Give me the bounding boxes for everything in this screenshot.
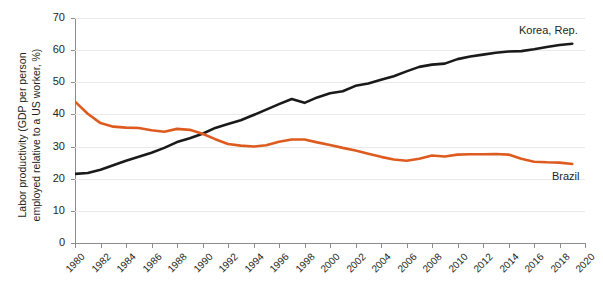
y-axis-title-line1: Labor productivity (GDP per person [16, 53, 28, 218]
chart-figure: Labor productivity (GDP per person emplo… [0, 0, 603, 283]
x-tick-mark [458, 244, 459, 248]
y-tick-label: 40 [35, 107, 65, 119]
x-tick-mark [432, 244, 433, 248]
x-tick-mark [381, 244, 382, 248]
x-tick-label: 1994 [239, 251, 265, 277]
series-lines [75, 18, 585, 243]
y-tick-label: 0 [35, 236, 65, 248]
x-tick-mark [509, 244, 510, 248]
x-tick-mark [152, 244, 153, 248]
x-tick-mark [101, 244, 102, 248]
y-tick-label: 20 [35, 172, 65, 184]
x-tick-label: 2016 [520, 251, 546, 277]
x-tick-label: 1986 [137, 251, 163, 277]
x-tick-mark [585, 244, 586, 248]
x-tick-mark [356, 244, 357, 248]
x-tick-mark [126, 244, 127, 248]
x-tick-label: 1990 [188, 251, 214, 277]
x-tick-mark [75, 244, 76, 248]
x-tick-mark [279, 244, 280, 248]
x-tick-mark [407, 244, 408, 248]
x-tick-mark [534, 244, 535, 248]
x-tick-mark [228, 244, 229, 248]
x-tick-label: 2012 [469, 251, 495, 277]
y-tick-label: 60 [35, 43, 65, 55]
x-tick-mark [330, 244, 331, 248]
series-label-korea: Korea, Rep. [519, 24, 578, 36]
x-tick-mark [203, 244, 204, 248]
x-tick-label: 1984 [112, 251, 138, 277]
x-tick-label: 2004 [367, 251, 393, 277]
x-tick-label: 1998 [290, 251, 316, 277]
x-tick-mark [305, 244, 306, 248]
x-tick-label: 1996 [265, 251, 291, 277]
y-tick-label: 70 [35, 11, 65, 23]
x-tick-label: 2014 [494, 251, 520, 277]
y-tick-label: 10 [35, 204, 65, 216]
clipped-chart-title [150, 0, 570, 3]
x-tick-label: 2020 [571, 251, 597, 277]
x-tick-mark [483, 244, 484, 248]
x-tick-mark [560, 244, 561, 248]
x-tick-label: 2018 [545, 251, 571, 277]
x-tick-label: 1992 [214, 251, 240, 277]
x-tick-label: 1980 [61, 251, 87, 277]
x-tick-mark [177, 244, 178, 248]
x-tick-label: 2008 [418, 251, 444, 277]
x-tick-mark [254, 244, 255, 248]
x-tick-label: 2010 [443, 251, 469, 277]
x-tick-label: 1982 [86, 251, 112, 277]
x-tick-label: 2006 [392, 251, 418, 277]
x-tick-label: 1988 [163, 251, 189, 277]
y-tick-label: 30 [35, 140, 65, 152]
y-tick-label: 50 [35, 75, 65, 87]
plot-area [75, 18, 585, 243]
x-tick-label: 2000 [316, 251, 342, 277]
series-label-brazil: Brazil [552, 170, 580, 182]
x-tick-label: 2002 [341, 251, 367, 277]
